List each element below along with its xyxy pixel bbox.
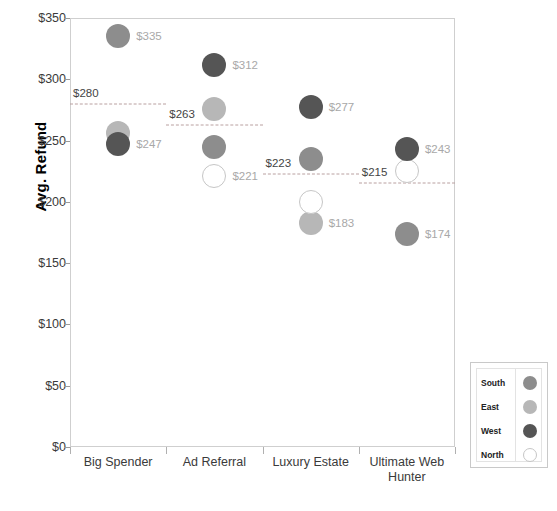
legend-item-label: South — [481, 378, 505, 388]
x-tick-mark — [359, 447, 360, 454]
data-point-marker[interactable] — [395, 159, 419, 183]
chart-root: Avg. Refund $0$50$100$150$200$250$300$35… — [0, 0, 557, 511]
y-tick-mark — [64, 202, 70, 203]
reference-line-label: $223 — [266, 157, 292, 169]
x-tick-mark — [455, 447, 456, 454]
y-tick-mark — [64, 324, 70, 325]
data-point-marker[interactable] — [106, 24, 130, 48]
legend-swatch-west-icon — [523, 424, 537, 438]
data-point-label: $243 — [425, 143, 451, 155]
y-tick-label: $250 — [0, 134, 66, 148]
data-point-marker[interactable] — [299, 211, 323, 235]
legend-item-north[interactable]: North — [471, 443, 547, 467]
data-point-marker[interactable] — [299, 95, 323, 119]
legend-swatch-east-icon — [523, 400, 537, 414]
data-point-marker[interactable] — [395, 222, 419, 246]
legend: SouthEastWestNorth — [470, 362, 548, 468]
y-tick-mark — [64, 263, 70, 264]
reference-line-label: $215 — [362, 166, 388, 178]
reference-line — [166, 124, 262, 125]
data-point-marker[interactable] — [202, 164, 226, 188]
x-tick-label: Ultimate WebHunter — [359, 455, 455, 485]
data-point-marker[interactable] — [202, 135, 226, 159]
data-point-label: $277 — [329, 101, 355, 113]
data-point-marker[interactable] — [395, 137, 419, 161]
y-tick-label: $0 — [0, 440, 66, 454]
legend-item-label: West — [481, 426, 501, 436]
reference-line — [70, 103, 166, 104]
legend-item-label: East — [481, 402, 499, 412]
y-tick-label: $200 — [0, 195, 66, 209]
y-axis-title: Avg. Refund — [32, 97, 49, 237]
data-point-marker[interactable] — [299, 190, 323, 214]
data-point-label: $183 — [329, 217, 355, 229]
reference-line-label: $280 — [73, 87, 99, 99]
y-tick-label: $150 — [0, 256, 66, 270]
legend-item-west[interactable]: West — [471, 419, 547, 443]
x-tick-label: Big Spender — [70, 455, 166, 470]
data-point-label: $335 — [136, 30, 162, 42]
y-tick-mark — [64, 386, 70, 387]
x-tick-label: Ad Referral — [166, 455, 262, 470]
x-tick-mark — [263, 447, 264, 454]
y-tick-label: $50 — [0, 379, 66, 393]
legend-item-south[interactable]: South — [471, 371, 547, 395]
y-tick-label: $100 — [0, 317, 66, 331]
reference-line-label: $263 — [169, 108, 195, 120]
data-point-marker[interactable] — [202, 97, 226, 121]
y-tick-mark — [64, 141, 70, 142]
legend-item-label: North — [481, 450, 504, 460]
data-point-label: $221 — [232, 170, 258, 182]
y-tick-mark — [64, 18, 70, 19]
data-point-label: $174 — [425, 228, 451, 240]
reference-line — [263, 173, 359, 174]
x-tick-mark — [70, 447, 71, 454]
legend-swatch-south-icon — [523, 376, 537, 390]
data-point-label: $247 — [136, 138, 162, 150]
x-tick-label: Luxury Estate — [263, 455, 359, 470]
data-point-label: $312 — [232, 59, 258, 71]
legend-item-east[interactable]: East — [471, 395, 547, 419]
y-tick-label: $350 — [0, 11, 66, 25]
data-point-marker[interactable] — [299, 147, 323, 171]
y-tick-mark — [64, 79, 70, 80]
x-tick-mark — [166, 447, 167, 454]
data-point-marker[interactable] — [202, 53, 226, 77]
data-point-marker[interactable] — [106, 132, 130, 156]
y-tick-label: $300 — [0, 72, 66, 86]
legend-swatch-north-icon — [523, 448, 537, 462]
